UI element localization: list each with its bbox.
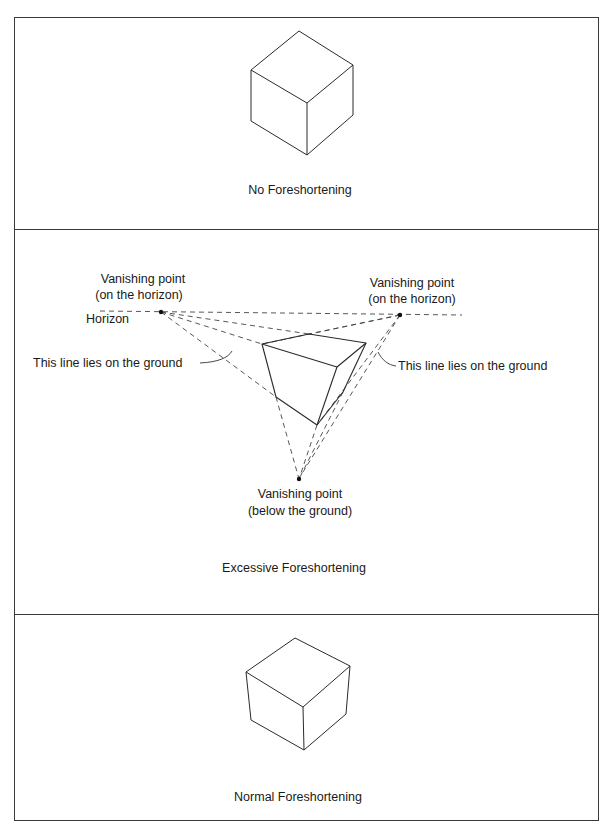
leader-lines (200, 351, 396, 366)
cube-no-foreshortening (251, 31, 353, 155)
caption-normal-foreshortening: Normal Foreshortening (234, 790, 362, 805)
cube-normal-foreshortening (246, 638, 350, 750)
vanishing-point-left-dot (159, 310, 163, 314)
label-horizon: Horizon (86, 312, 129, 327)
label-vp-right-line1: Vanishing point (370, 276, 455, 291)
vanishing-point-bottom-dot (297, 477, 301, 481)
vanishing-point-right-dot (398, 313, 402, 317)
label-vp-right-line2: (on the horizon) (368, 292, 456, 307)
label-vp-bottom-line1: Vanishing point (258, 487, 343, 502)
label-vp-left-line2: (on the horizon) (95, 288, 183, 303)
label-ground-left: This line lies on the ground (33, 356, 182, 371)
label-vp-left-line1: Vanishing point (101, 272, 186, 287)
label-vp-bottom-line2: (below the ground) (248, 504, 352, 519)
caption-no-foreshortening: No Foreshortening (248, 183, 352, 198)
construction-lines (100, 311, 462, 479)
label-ground-right: This line lies on the ground (398, 359, 547, 374)
cube-excessive-foreshortening (262, 334, 366, 425)
leader-right (378, 352, 396, 366)
vanishing-points (159, 310, 402, 481)
caption-excessive-foreshortening: Excessive Foreshortening (222, 561, 366, 576)
horizon-line (100, 311, 462, 315)
diagram-canvas (0, 0, 612, 833)
